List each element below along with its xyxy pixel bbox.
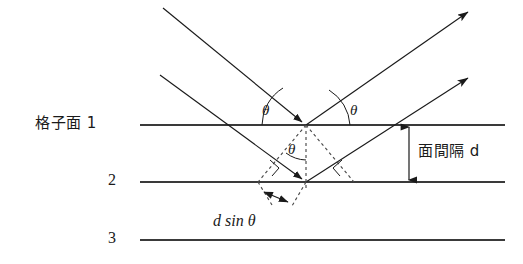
interplanar-spacing-label: 面間隔 d xyxy=(418,144,480,159)
reflected-ray-upper xyxy=(306,12,468,125)
path-difference-extension-2 xyxy=(292,182,306,206)
bragg-diffraction-figure: 格子面 1 2 3 面間隔 d d sin θ θ θ θ xyxy=(0,0,523,264)
lattice-plane-3-label: 3 xyxy=(108,230,116,246)
lattice-plane-1-label: 格子面 1 xyxy=(35,116,97,131)
path-difference-label: d sin θ xyxy=(213,213,256,229)
incident-ray-lower xyxy=(160,75,302,179)
path-difference-arrow xyxy=(264,192,288,202)
construction-line-right xyxy=(306,125,354,182)
theta-lower-label: θ xyxy=(288,142,295,157)
lattice-plane-2-label: 2 xyxy=(108,172,116,188)
theta-incident-label: θ xyxy=(262,103,269,118)
path-difference-extension xyxy=(258,182,272,205)
construction-line-left xyxy=(258,125,306,182)
angle-arc-reflected xyxy=(329,90,350,125)
reflected-ray-lower xyxy=(306,78,468,182)
diagram-canvas xyxy=(0,0,523,264)
incident-ray-upper xyxy=(163,8,302,122)
theta-reflected-label: θ xyxy=(350,103,357,118)
